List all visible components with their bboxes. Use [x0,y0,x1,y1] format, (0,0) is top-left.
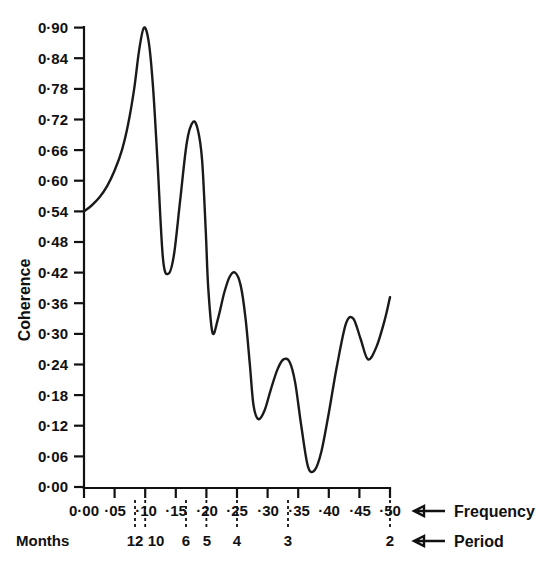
frequency-callout-label: Frequency [454,503,535,520]
period-tick-label: 6 [182,532,190,549]
x-tick-label: ·15 [165,502,187,519]
x-tick-label: ·45 [349,502,371,519]
x-tick-label: ·25 [226,502,248,519]
coherence-data-curve [84,27,390,472]
period-callout: Period [414,533,504,550]
x-tick-label: ·40 [318,502,340,519]
period-tick-label: 10 [148,532,165,549]
y-tick-label: 0·00 [38,478,68,495]
y-tick-label: 0·18 [38,387,68,404]
period-row-title: Months [16,532,69,549]
x-tick-label: ·35 [288,502,310,519]
period-tick-label: 4 [233,532,242,549]
coherence-chart: 0·90 0·84 0·78 0·72 0·66 0·60 0·54 0·48 … [0,0,541,561]
x-tick-label: ·50 [379,502,401,519]
x-tick-label: ·10 [135,502,157,519]
y-tick-label: 0·78 [38,80,68,97]
y-tick-label: 0·30 [38,325,68,342]
y-tick-label: 0·48 [38,233,68,250]
y-axis-tick-labels: 0·90 0·84 0·78 0·72 0·66 0·60 0·54 0·48 … [38,19,69,495]
period-callout-label: Period [454,533,504,550]
y-tick-label: 0·54 [38,203,69,220]
y-axis-title: Coherence [16,259,33,342]
y-tick-label: 0·66 [38,142,68,159]
y-tick-label: 0·06 [38,448,68,465]
period-tick-label: 3 [284,532,292,549]
period-tick-label: 2 [386,532,394,549]
x-tick-label: ·05 [104,502,126,519]
y-tick-label: 0·42 [38,264,68,281]
y-tick-label: 0·60 [38,172,68,189]
x-tick-label: ·20 [196,502,218,519]
y-axis-ticks [74,28,84,487]
y-tick-label: 0·36 [38,295,68,312]
y-tick-label: 0·72 [38,111,68,128]
frequency-callout: Frequency [414,503,535,520]
y-tick-label: 0·12 [38,417,68,434]
y-tick-label: 0·84 [38,50,69,67]
period-axis-labels: 12 10 6 5 4 3 2 [127,532,395,549]
x-tick-label: 0·00 [69,502,99,519]
y-tick-label: 0·90 [38,19,68,36]
period-tick-label: 5 [203,532,211,549]
x-axis-ticks [84,488,390,498]
x-tick-label: ·30 [257,502,279,519]
period-tick-label: 12 [127,532,144,549]
x-axis-tick-labels: 0·00 ·05 ·10 ·15 ·20 ·25 ·30 ·35 ·40 ·45… [69,502,401,519]
y-tick-label: 0·24 [38,356,69,373]
chart-svg: 0·90 0·84 0·78 0·72 0·66 0·60 0·54 0·48 … [0,0,541,561]
